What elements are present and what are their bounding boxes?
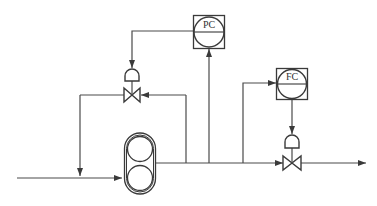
bypass-control-valve	[124, 69, 140, 102]
fc-label: FC	[286, 71, 299, 82]
pc-controller: PC	[194, 16, 225, 49]
pc-signal-line	[132, 31, 193, 68]
diaphragm-actuator-icon	[285, 135, 299, 148]
fc-controller: FC	[277, 69, 308, 100]
process-diagram: PC FC	[0, 0, 377, 206]
fc-measurement-line	[243, 83, 276, 163]
pc-label: PC	[203, 19, 216, 30]
pump-symbol	[125, 133, 156, 194]
discharge-control-valve	[283, 135, 301, 170]
diaphragm-actuator-icon	[125, 69, 139, 81]
